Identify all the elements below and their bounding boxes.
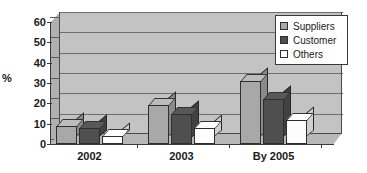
- x-axis-tick-label: 2002: [40, 150, 139, 162]
- legend-label-others: Others: [293, 49, 323, 60]
- legend-item[interactable]: Suppliers: [280, 19, 343, 33]
- bar-others-by-2005: [286, 120, 307, 144]
- x-axis-tick-label: 2003: [132, 150, 231, 162]
- bar-side-face: [306, 106, 314, 137]
- bar-front-face: [286, 120, 307, 144]
- legend-label-customer: Customer: [293, 35, 336, 46]
- x-axis-tick-mark: [229, 144, 230, 148]
- legend: Suppliers Customer Others: [275, 15, 348, 65]
- x-axis-tick-label: By 2005: [224, 150, 323, 162]
- bar-suppliers-2002: [56, 126, 77, 144]
- bar-front-face: [56, 126, 77, 144]
- bar-front-face: [102, 136, 123, 144]
- bar-front-face: [148, 105, 169, 144]
- legend-label-suppliers: Suppliers: [293, 21, 335, 32]
- bar-front-face: [240, 81, 261, 144]
- bar-suppliers-2003: [148, 105, 169, 144]
- bar-front-face: [263, 99, 284, 144]
- bar-front-face: [171, 114, 192, 145]
- x-axis-tick-mark: [137, 144, 138, 148]
- bar-suppliers-by-2005: [240, 81, 261, 144]
- bar-customer-2003: [171, 114, 192, 145]
- legend-item[interactable]: Customer: [280, 33, 343, 47]
- x-axis-tick-mark: [321, 144, 322, 148]
- bar-others-2002: [102, 136, 123, 144]
- legend-swatch-suppliers: [280, 22, 288, 30]
- legend-item[interactable]: Others: [280, 47, 343, 61]
- bar-customer-by-2005: [263, 99, 284, 144]
- bar-customer-2002: [79, 128, 100, 144]
- bar-front-face: [194, 128, 215, 144]
- legend-swatch-customer: [280, 36, 288, 44]
- bar-others-2003: [194, 128, 215, 144]
- bar-chart: % 0102030405060 20022003By 2005 Supplier…: [0, 0, 367, 173]
- bar-front-face: [79, 128, 100, 144]
- legend-swatch-others: [280, 50, 288, 58]
